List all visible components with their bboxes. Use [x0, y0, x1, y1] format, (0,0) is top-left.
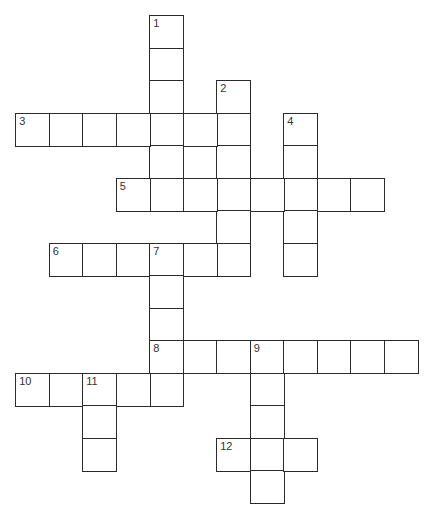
crossword-cell[interactable]: 9: [250, 340, 285, 374]
crossword-cell[interactable]: [216, 113, 251, 147]
crossword-cell[interactable]: [283, 438, 318, 472]
crossword-cell[interactable]: 8: [149, 340, 184, 374]
crossword-cell[interactable]: [116, 373, 151, 407]
crossword-cell[interactable]: [149, 373, 184, 407]
clue-number: 8: [153, 342, 159, 354]
crossword-cell[interactable]: [183, 340, 218, 374]
crossword-cell[interactable]: [250, 373, 285, 407]
crossword-cell[interactable]: [82, 243, 117, 277]
crossword-cell[interactable]: [149, 145, 184, 179]
crossword-cell[interactable]: 10: [15, 373, 50, 407]
crossword-cell[interactable]: [216, 210, 251, 244]
crossword-cell[interactable]: [149, 275, 184, 309]
crossword-cell[interactable]: [149, 308, 184, 342]
crossword-cell[interactable]: [350, 340, 385, 374]
clue-number: 1: [153, 17, 159, 29]
clue-number: 4: [287, 115, 293, 127]
clue-number: 9: [254, 342, 260, 354]
crossword-cell[interactable]: 2: [216, 80, 251, 114]
clue-number: 11: [86, 375, 97, 387]
crossword-cell[interactable]: [82, 113, 117, 147]
crossword-cell[interactable]: [149, 113, 184, 147]
crossword-cell[interactable]: [82, 405, 117, 439]
crossword-cell[interactable]: [250, 178, 285, 212]
clue-number: 6: [53, 245, 59, 257]
crossword-cell[interactable]: 6: [49, 243, 84, 277]
clue-number: 12: [220, 440, 232, 452]
crossword-cell[interactable]: [183, 243, 218, 277]
crossword-cell[interactable]: [183, 113, 218, 147]
crossword-grid: 123456789101112: [0, 0, 431, 523]
crossword-cell[interactable]: [317, 178, 352, 212]
crossword-cell[interactable]: [283, 243, 318, 277]
crossword-cell[interactable]: [350, 178, 385, 212]
crossword-cell[interactable]: [49, 113, 84, 147]
crossword-cell[interactable]: [317, 340, 352, 374]
clue-number: 3: [19, 115, 25, 127]
crossword-cell[interactable]: [216, 178, 251, 212]
crossword-cell[interactable]: [116, 113, 151, 147]
crossword-cell[interactable]: [283, 340, 318, 374]
crossword-cell[interactable]: 3: [15, 113, 50, 147]
crossword-cell[interactable]: [250, 470, 285, 504]
clue-number: 5: [120, 180, 126, 192]
crossword-cell[interactable]: 5: [116, 178, 151, 212]
clue-number: 10: [19, 375, 31, 387]
clue-number: 2: [220, 82, 226, 94]
crossword-cell[interactable]: [250, 405, 285, 439]
crossword-cell[interactable]: [149, 80, 184, 114]
crossword-cell[interactable]: 12: [216, 438, 251, 472]
crossword-cell[interactable]: [49, 373, 84, 407]
crossword-cell[interactable]: [116, 243, 151, 277]
crossword-cell[interactable]: [216, 145, 251, 179]
crossword-cell[interactable]: [250, 438, 285, 472]
crossword-cell[interactable]: [283, 145, 318, 179]
crossword-cell[interactable]: [149, 178, 184, 212]
clue-number: 7: [153, 245, 159, 257]
crossword-cell[interactable]: 1: [149, 15, 184, 49]
crossword-cell[interactable]: [183, 178, 218, 212]
crossword-cell[interactable]: [216, 243, 251, 277]
crossword-cell[interactable]: [216, 340, 251, 374]
crossword-cell[interactable]: [149, 48, 184, 82]
crossword-cell[interactable]: [283, 178, 318, 212]
crossword-cell[interactable]: 11: [82, 373, 117, 407]
crossword-cell[interactable]: [82, 438, 117, 472]
crossword-cell[interactable]: 7: [149, 243, 184, 277]
crossword-cell[interactable]: [283, 210, 318, 244]
crossword-cell[interactable]: [384, 340, 419, 374]
crossword-cell[interactable]: 4: [283, 113, 318, 147]
